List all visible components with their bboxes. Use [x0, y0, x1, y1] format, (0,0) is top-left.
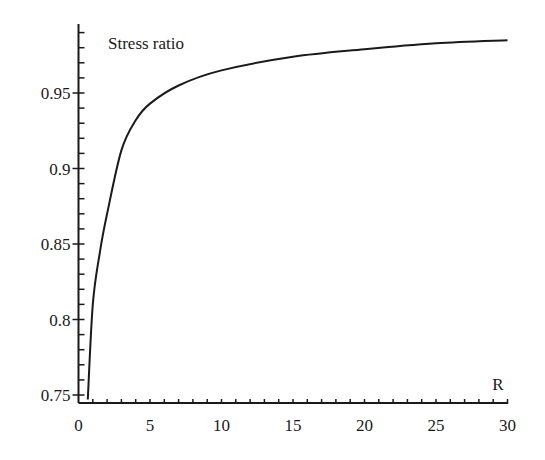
axis-ticks [73, 33, 508, 404]
y-tick-label: 0.75 [41, 386, 71, 405]
x-tick-label: 15 [285, 416, 302, 435]
x-axis-label: R [492, 375, 504, 394]
y-tick-label: 0.95 [41, 84, 71, 103]
x-tick-label: 20 [356, 416, 373, 435]
axes [79, 24, 508, 403]
y-axis-label: Stress ratio [108, 34, 184, 53]
x-tick-label: 10 [213, 416, 230, 435]
x-tick-label: 5 [146, 416, 155, 435]
y-tick-label: 0.85 [41, 235, 71, 254]
stress-ratio-chart: 0.750.80.850.90.95051015202530 Stress ra… [0, 0, 545, 460]
x-tick-label: 0 [74, 416, 83, 435]
x-tick-label: 25 [428, 416, 445, 435]
stress-ratio-curve [88, 40, 508, 399]
y-tick-label: 0.8 [49, 311, 70, 330]
axis-tick-labels: 0.750.80.850.90.95051015202530 [41, 84, 516, 435]
x-tick-label: 30 [499, 416, 516, 435]
y-tick-label: 0.9 [49, 160, 70, 179]
